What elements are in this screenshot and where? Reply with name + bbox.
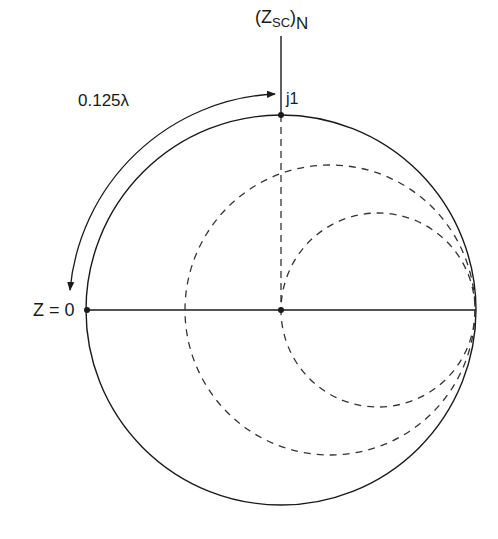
arc-length-label: 0.125λ xyxy=(78,92,129,109)
smith-chart-diagram xyxy=(0,0,498,539)
normalized-short-circuit-impedance-label: (ZSC)N xyxy=(255,8,308,29)
label-n-subscript: N xyxy=(296,14,308,33)
z-zero-label: Z = 0 xyxy=(33,301,75,319)
short-circuit-point xyxy=(84,307,90,313)
center-point xyxy=(278,307,284,313)
j1-point xyxy=(278,112,284,118)
label-z-open: (Z xyxy=(255,7,272,27)
label-sc-subscript: SC xyxy=(272,15,290,30)
j1-label: j1 xyxy=(286,91,298,107)
rotation-arrow-arc xyxy=(70,94,275,290)
